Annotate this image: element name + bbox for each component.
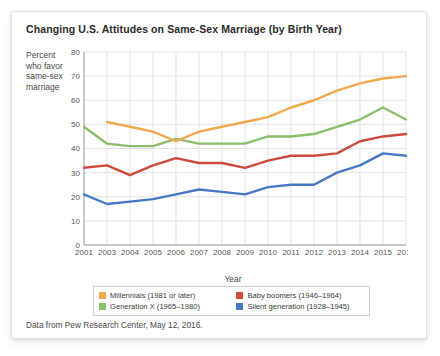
chart-title: Changing U.S. Attitudes on Same-Sex Marr… xyxy=(26,23,342,35)
legend-item-millennials: Millennials (1981 or later) xyxy=(99,290,236,301)
chart-card: Changing U.S. Attitudes on Same-Sex Marr… xyxy=(11,11,427,339)
legend-item-baby-boomers: Baby boomers (1946–1964) xyxy=(236,290,364,301)
svg-text:10: 10 xyxy=(71,217,80,226)
svg-text:2011: 2011 xyxy=(282,248,300,257)
legend-label-generation-x: Generation X (1965–1980) xyxy=(110,301,200,312)
legend-row-1: Millennials (1981 or later) Baby boomers… xyxy=(99,290,364,301)
svg-text:2012: 2012 xyxy=(305,248,323,257)
svg-text:80: 80 xyxy=(71,48,80,57)
legend-item-silent-generation: Silent generation (1928–1945) xyxy=(236,301,364,312)
legend-label-millennials: Millennials (1981 or later) xyxy=(110,290,195,301)
svg-text:2003: 2003 xyxy=(98,248,116,257)
svg-text:2007: 2007 xyxy=(190,248,208,257)
svg-text:40: 40 xyxy=(71,144,80,153)
x-axis-title: Year xyxy=(224,274,241,284)
svg-text:2005: 2005 xyxy=(144,248,162,257)
legend-swatch-icon-silent-generation xyxy=(236,303,243,310)
svg-text:50: 50 xyxy=(71,120,80,129)
svg-text:2008: 2008 xyxy=(213,248,231,257)
svg-text:70: 70 xyxy=(71,72,80,81)
svg-text:60: 60 xyxy=(71,96,80,105)
x-axis-title-holder: Year xyxy=(58,268,408,286)
legend-swatch-icon-generation-x xyxy=(99,303,106,310)
svg-text:2014: 2014 xyxy=(351,248,369,257)
plot-area: 01020304050607080 2001200320042005200620… xyxy=(58,48,408,263)
legend-swatch-icon-millennials xyxy=(99,292,106,299)
svg-text:2001: 2001 xyxy=(75,248,93,257)
grid-lines xyxy=(84,52,406,245)
legend-swatch-icon-baby-boomers xyxy=(236,292,243,299)
svg-text:2004: 2004 xyxy=(121,248,139,257)
line-chart-svg: 01020304050607080 2001200320042005200620… xyxy=(58,48,408,263)
svg-text:2010: 2010 xyxy=(259,248,277,257)
svg-text:20: 20 xyxy=(71,193,80,202)
x-axis-tick-labels: 2001200320042005200620072008200920102011… xyxy=(75,248,408,257)
svg-text:2006: 2006 xyxy=(167,248,185,257)
source-note: Data from Pew Research Center, May 12, 2… xyxy=(26,320,203,330)
svg-text:2013: 2013 xyxy=(328,248,346,257)
svg-text:2015: 2015 xyxy=(374,248,392,257)
y-axis-tick-labels: 01020304050607080 xyxy=(71,48,80,250)
legend-label-silent-generation: Silent generation (1928–1945) xyxy=(247,301,349,312)
svg-text:2009: 2009 xyxy=(236,248,254,257)
chart-legend: Millennials (1981 or later) Baby boomers… xyxy=(93,286,370,316)
legend-item-generation-x: Generation X (1965–1980) xyxy=(99,301,236,312)
svg-text:30: 30 xyxy=(71,169,80,178)
legend-label-baby-boomers: Baby boomers (1946–1964) xyxy=(247,290,341,301)
svg-text:2016: 2016 xyxy=(397,248,408,257)
legend-row-2: Generation X (1965–1980) Silent generati… xyxy=(99,301,364,312)
